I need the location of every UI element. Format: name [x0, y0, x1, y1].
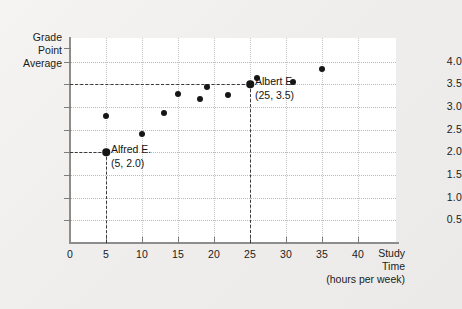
y-tick-label: 2.0 — [400, 145, 462, 157]
data-point — [319, 66, 325, 72]
x-axis-title-line: (hours per week) — [255, 273, 405, 286]
gridline-vertical — [142, 38, 144, 243]
gridline-vertical — [214, 38, 216, 243]
x-axis-title-line: Study — [255, 247, 405, 260]
y-axis-tick — [64, 198, 71, 199]
scatter-plot-figure: 0.51.01.52.02.53.03.54.0 051015202530354… — [0, 0, 462, 309]
gridline-vertical — [358, 38, 360, 243]
gridline-vertical — [178, 38, 180, 243]
y-axis-tick — [64, 130, 71, 131]
guide-line-albert-vertical — [250, 84, 251, 243]
annotation-name: Albert E. — [255, 75, 295, 89]
y-axis-title: GradePointAverage — [0, 31, 62, 71]
y-tick-label: 0.5 — [400, 213, 462, 225]
data-point — [204, 84, 210, 90]
data-point — [225, 92, 231, 98]
x-tick-label: 10 — [122, 248, 162, 260]
x-axis-tick — [142, 237, 143, 244]
gridline-horizontal — [70, 107, 396, 109]
x-tick-label: 15 — [158, 248, 198, 260]
y-tick-label: 1.0 — [400, 191, 462, 203]
y-tick-label: 3.0 — [400, 100, 462, 112]
x-axis-tick — [286, 237, 287, 244]
y-axis-tick — [64, 107, 71, 108]
y-axis-line — [69, 37, 71, 244]
data-point — [197, 96, 203, 102]
annotation-albert: Albert E.(25, 3.5) — [255, 75, 295, 102]
x-axis-tick — [214, 237, 215, 244]
y-axis-title-line: Point — [0, 44, 62, 57]
annotation-alfred: Alfred E.(5, 2.0) — [111, 143, 151, 170]
annotation-coordinates: (5, 2.0) — [111, 157, 151, 171]
gridline-vertical — [286, 38, 288, 243]
y-tick-label: 2.5 — [400, 123, 462, 135]
data-point-highlighted — [102, 149, 110, 157]
annotation-name: Alfred E. — [111, 143, 151, 157]
y-axis-tick — [64, 175, 71, 176]
y-axis-tick — [64, 48, 71, 49]
x-axis-title: StudyTime(hours per week) — [255, 247, 405, 287]
data-point — [139, 131, 145, 137]
x-axis-tick — [178, 237, 179, 244]
y-tick-label: 3.5 — [400, 77, 462, 89]
x-axis-line — [69, 242, 399, 244]
y-axis-title-line: Average — [0, 57, 62, 70]
x-axis-tick — [322, 237, 323, 244]
data-point — [103, 113, 109, 119]
gridline-horizontal — [70, 130, 396, 132]
gridline-horizontal — [70, 175, 396, 177]
x-tick-label: 0 — [50, 248, 90, 260]
data-point — [161, 110, 167, 116]
plot-area — [70, 38, 396, 243]
y-axis-tick — [64, 220, 71, 221]
annotation-coordinates: (25, 3.5) — [255, 89, 295, 103]
y-axis-title-line: Grade — [0, 31, 62, 44]
x-axis-tick — [358, 237, 359, 244]
gridline-horizontal — [70, 220, 396, 222]
y-tick-label: 1.5 — [400, 168, 462, 180]
guide-line-albert-horizontal — [70, 84, 250, 85]
data-point-highlighted — [246, 81, 254, 89]
y-tick-label: 4.0 — [400, 55, 462, 67]
data-point — [175, 91, 181, 97]
gridline-horizontal — [70, 198, 396, 200]
x-tick-label: 20 — [194, 248, 234, 260]
x-axis-title-line: Time — [255, 260, 405, 273]
guide-line-alfred-vertical — [106, 152, 107, 243]
guide-line-alfred-horizontal — [70, 152, 106, 153]
x-tick-label: 5 — [86, 248, 126, 260]
gridline-horizontal — [70, 62, 396, 64]
y-axis-tick — [64, 62, 71, 63]
